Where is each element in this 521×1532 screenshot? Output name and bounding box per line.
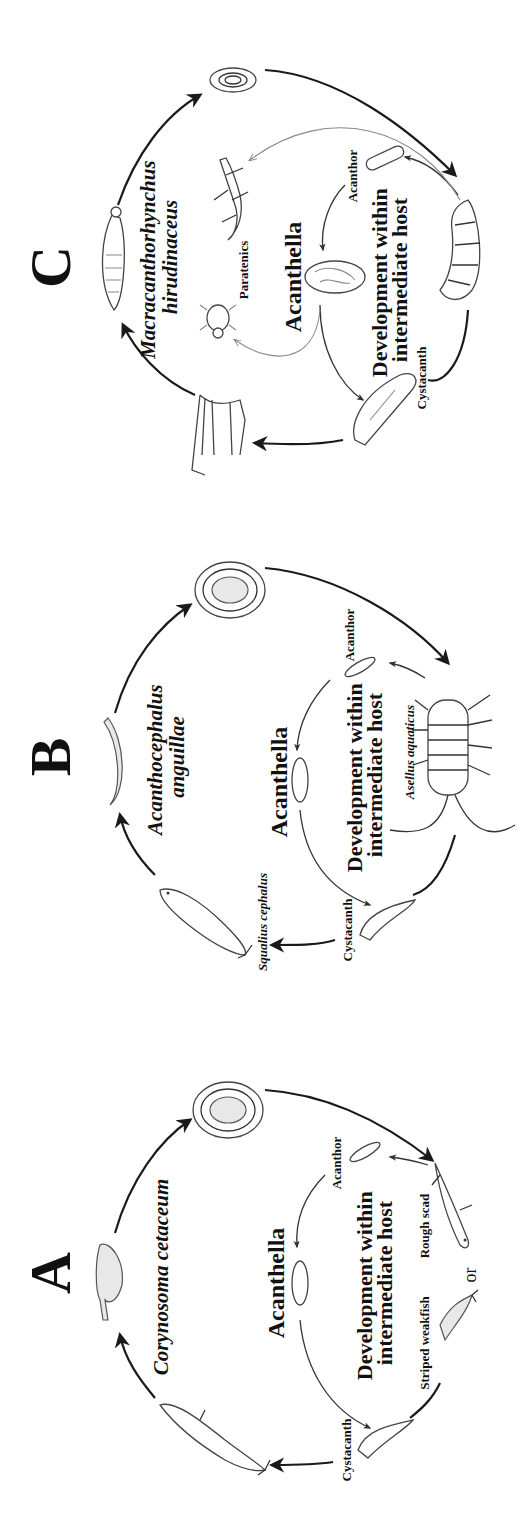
salamander-paratenic-icon [214,158,248,240]
label-striped-weakfish: Striped weakfish [417,1295,432,1389]
cycle-arrow-host-to-cystacanth [428,310,468,381]
cycle-arrow-cystacanth-to-porpoise [272,1462,333,1465]
striped-weakfish-icon [440,1290,478,1340]
panel-letter-a: A [18,1252,83,1294]
acanthella-larva-icon [292,758,308,802]
cycle-arrow-cystacanth-to-dog [255,440,343,444]
label-cystacanth-c: Cystacanth [414,346,429,410]
cystacanth-larva-icon [360,900,415,940]
label-or: or [460,1268,480,1283]
label-development-a: Development within intermediate host [352,1186,397,1380]
label-acanthella-c: Acanthella [280,222,306,333]
panel-letter-b: B [18,738,83,777]
panel-c: C [18,68,480,475]
label-definitive-host-b: Squalius cephalus [255,873,270,971]
label-cystacanth-a: Cystacanth [339,1418,354,1482]
cycle-arrow-isopod-to-cystacanth [413,835,455,895]
life-cycle-figure: C [0,0,521,1532]
egg-icon [195,562,265,618]
rough-scad-fish-icon [432,1163,472,1248]
arrow-to-paratenic-beetle [235,310,320,356]
beetle-paratenic-icon [200,305,236,338]
label-paratenics: Paratenics [236,241,251,299]
arrow-acanthor-to-acanthella [297,680,330,750]
label-development-b: Development within intermediate host [342,678,387,872]
cycle-arrow-cystacanth-to-fish [272,940,335,945]
arrow-host-to-acanthor [390,663,425,678]
label-acanthor-a: Acanthor [329,1136,344,1189]
cycle-arrow-egg-to-fish [265,1090,432,1160]
label-development-c: Development within intermediate host [367,183,412,377]
arrow-host-to-acanthor [405,157,458,195]
adult-worm-icon [96,1244,122,1320]
panel-letter-c: C [18,246,83,288]
acanthella-larva-icon [292,1261,308,1305]
adult-worm-icon [104,718,122,805]
label-acanthor-b: Acanthor [342,608,357,661]
arrow-acanthor-to-acanthella [297,1175,325,1247]
panel-b: B [18,562,515,971]
panel-a: A [18,1082,480,1481]
porpoise-definitive-host-icon [160,1404,270,1475]
acanthor-larva-icon [348,1139,382,1165]
acanthella-larva-icon [305,261,365,293]
species-name-b: Acanthocephalus anguillae [143,679,189,837]
species-name-a: Corynosoma cetaceum [149,1179,173,1376]
egg-icon [210,68,256,92]
label-acanthor-c: Acanthor [345,149,360,202]
label-intermediate-host-b: Asellus aquaticus [402,705,417,800]
arrow-acanthor-to-acanthella [322,185,345,250]
dog-definitive-host-icon [192,395,245,475]
arrow-fish-to-acanthor [390,1157,428,1165]
label-cystacanth-b: Cystacanth [340,898,355,962]
beetle-grub-intermediate-host-icon [440,200,480,299]
species-name-c: Macracanthorhynchus hirudinaceus [136,155,182,360]
acanthor-larva-icon [364,144,405,172]
label-acanthella-b: Acanthella [266,727,292,838]
adult-worm-icon [103,207,125,310]
chub-fish-definitive-host-icon [160,889,252,958]
egg-icon [193,1082,263,1138]
cystacanth-larva-icon [354,374,416,445]
label-rough-scad: Rough scad [417,1193,432,1258]
arrow-acanthella-to-cystacanth [320,305,363,400]
label-acanthella-a: Acanthella [263,1228,289,1339]
